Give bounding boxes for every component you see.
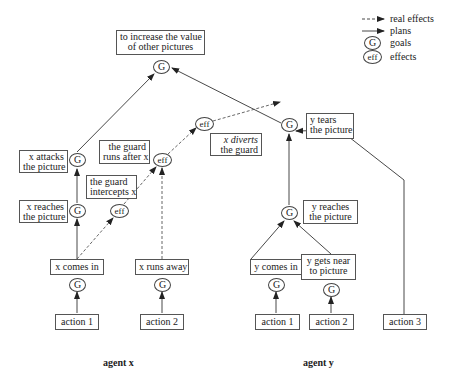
legend-effect-icon: eff (363, 50, 382, 64)
legend-goals: goals (390, 38, 411, 48)
guard-runs-box: the guard runs after x (99, 140, 150, 164)
x-runs-away-goal-node: G (154, 278, 171, 292)
legend-real-effects: real effects (390, 14, 434, 24)
x-diverts-box: x diverts the guard (210, 133, 262, 156)
y-tears-box: y tears the picture (306, 113, 354, 139)
x-reaches-goal-node: G (69, 204, 86, 218)
y-gets-near-box: y gets near to picture (301, 254, 356, 280)
y-action-3-box: action 3 (383, 314, 427, 330)
x-comes-in-box: x comes in (50, 259, 104, 275)
edge-y-tears-to-top (172, 68, 281, 123)
guard-intercepts-box: the guard intercepts x (86, 175, 137, 199)
x-action-2-box: action 2 (140, 314, 184, 330)
x-attacks-goal-node: G (69, 153, 86, 167)
x-attacks-box: x attacks the picture (19, 150, 68, 173)
top-goal-box: to increase the value of other pictures (116, 30, 205, 55)
y-gets-near-goal-node: G (323, 283, 340, 297)
y-tears-goal-node: G (281, 118, 298, 132)
x-runs-away-box: x runs away (135, 259, 189, 275)
guard-intercepts-effect-node: eff (110, 204, 129, 218)
x-reaches-box: x reaches the picture (19, 200, 68, 223)
legend-effects: effects (390, 52, 416, 62)
y-action-2-box: action 2 (309, 314, 354, 330)
agent-x-label: agent x (103, 357, 134, 368)
legend-plans: plans (390, 26, 411, 36)
guard-runs-effect-node: eff (153, 153, 172, 167)
x-comes-in-goal-node: G (69, 278, 86, 292)
y-comes-in-goal-node: G (268, 278, 285, 292)
y-reaches-box: y reaches the picture (303, 200, 358, 224)
y-comes-in-box: y comes in (250, 259, 302, 275)
y-action-1-box: action 1 (255, 314, 300, 330)
legend-goal-icon: G (364, 36, 381, 50)
top-goal-node: G (153, 60, 170, 74)
agent-y-label: agent y (303, 357, 334, 368)
x-diverts-effect-node: eff (195, 117, 214, 131)
x-action-1-box: action 1 (55, 314, 99, 330)
y-reaches-goal-node: G (281, 206, 298, 220)
